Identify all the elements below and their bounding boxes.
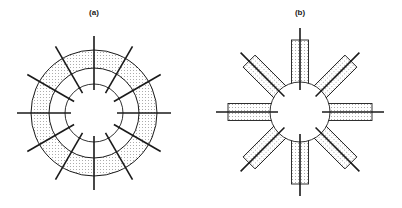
spoke-line bbox=[316, 128, 360, 172]
spoke-line bbox=[241, 53, 285, 97]
diagram-canvas bbox=[0, 0, 402, 208]
inner-ring bbox=[65, 84, 123, 142]
panel-b-star-electrode-diagram bbox=[216, 28, 384, 196]
panel-b-label: (b) bbox=[295, 8, 305, 17]
spoke-line bbox=[316, 53, 360, 97]
panel-a-label: (a) bbox=[89, 8, 99, 17]
spoke-line bbox=[241, 128, 285, 172]
panel-a-ring-electrode-diagram bbox=[17, 36, 171, 190]
